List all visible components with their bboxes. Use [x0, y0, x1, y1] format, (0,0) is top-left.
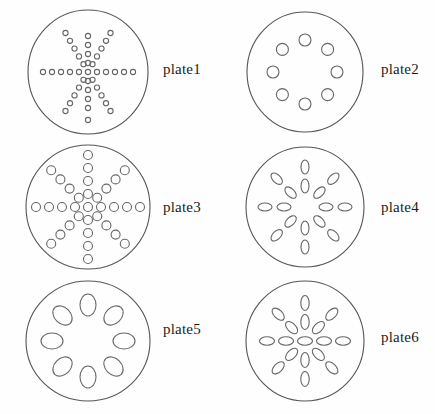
plate-hole [299, 98, 311, 110]
plate-hole [100, 353, 127, 380]
plate-hole [74, 193, 83, 202]
plate-hole [103, 38, 108, 43]
plate-plate6 [240, 275, 370, 407]
plate-drawing-plate1 [22, 4, 154, 140]
plate-hole [93, 193, 102, 202]
plate-hole [58, 69, 63, 74]
plate-hole [72, 46, 77, 51]
plate-hole [130, 69, 135, 74]
plate-hole [85, 87, 90, 92]
plate-hole [301, 240, 309, 254]
plate-hole [136, 203, 145, 212]
plate-outline [26, 281, 150, 401]
plate-hole [298, 337, 313, 345]
plate-hole [301, 221, 309, 235]
plate-drawing-plate6 [240, 275, 370, 407]
plate-hole [317, 337, 332, 345]
plate-hole [112, 69, 117, 74]
plate-hole [267, 66, 279, 78]
plate-hole [102, 221, 111, 230]
plate-hole [283, 319, 300, 336]
plate-hole [84, 242, 93, 251]
plate-hole [47, 166, 56, 175]
plate-hole [322, 89, 334, 101]
plate-hole [85, 42, 90, 47]
plate-hole [283, 214, 299, 230]
figure-canvas: plate1plate2plate3plate4plate5plate6 [0, 0, 435, 414]
plate-hole [94, 69, 99, 74]
plate-hole [65, 184, 74, 193]
plate-hole [85, 117, 90, 122]
plate-hole [111, 230, 120, 239]
plate-hole [63, 108, 68, 113]
plate-hole [94, 85, 99, 90]
plate-hole [99, 93, 104, 98]
plate-label-plate6: plate6 [381, 330, 419, 345]
plate-hole [260, 337, 275, 345]
plate-hole [113, 333, 135, 349]
plate-label-plate1: plate1 [163, 62, 201, 77]
plate-hole [283, 185, 299, 201]
plate-hole [71, 203, 80, 212]
plate-hole [76, 54, 81, 59]
plate-hole [84, 216, 93, 225]
plate-hole [49, 353, 76, 380]
plate-hole [74, 212, 83, 221]
plate-hole [301, 353, 309, 368]
plate-hole [276, 43, 288, 55]
plate-plate5 [20, 275, 156, 407]
plate-hole [56, 175, 65, 184]
plate-hole [279, 337, 294, 345]
plate-hole [93, 212, 102, 221]
plate-hole [301, 372, 309, 387]
plate-hole [49, 69, 54, 74]
plate-hole [32, 203, 41, 212]
plate-hole [80, 366, 96, 388]
plate-plate1 [22, 4, 154, 140]
plate-drawing-plate2 [241, 6, 369, 138]
plate-hole [84, 190, 93, 199]
plate-hole [84, 229, 93, 238]
plate-hole [80, 294, 96, 316]
plate-hole [84, 255, 93, 264]
plate-hole [269, 228, 285, 244]
plate-hole [85, 69, 90, 74]
plate-hole [45, 203, 54, 212]
plate-hole [67, 69, 72, 74]
plate-hole [40, 69, 45, 74]
plate-hole [85, 105, 90, 110]
plate-hole [63, 30, 68, 35]
plate-hole [102, 184, 111, 193]
plate-hole [331, 66, 343, 78]
plate-drawing-plate3 [20, 139, 156, 275]
plate-label-plate5: plate5 [163, 322, 201, 337]
plate-hole [110, 203, 119, 212]
plate-hole [67, 101, 72, 106]
plate-hole [336, 337, 351, 345]
plate-hole [103, 101, 108, 106]
plate-hole [120, 166, 129, 175]
plate-hole [312, 214, 328, 230]
plate-hole [58, 203, 67, 212]
plate-hole [67, 38, 72, 43]
plate-hole [100, 302, 127, 329]
plate-label-plate2: plate2 [381, 62, 419, 77]
plate-hole [301, 296, 309, 311]
plate-hole [324, 360, 341, 377]
plate-hole [299, 34, 311, 46]
plate-hole [120, 239, 129, 248]
plate-hole [99, 46, 104, 51]
plate-hole [270, 306, 287, 323]
plate-hole [270, 360, 287, 377]
plate-drawing-plate4 [240, 141, 370, 273]
plate-hole [56, 230, 65, 239]
plate-hole [310, 346, 327, 363]
plate-hole [111, 175, 120, 184]
plate-hole [76, 69, 81, 74]
plate-hole [301, 315, 309, 330]
plate-hole [319, 203, 333, 211]
plate-drawing-plate5 [20, 275, 156, 407]
plate-outline [246, 147, 364, 267]
plate-hole [76, 85, 81, 90]
plate-hole [85, 33, 90, 38]
